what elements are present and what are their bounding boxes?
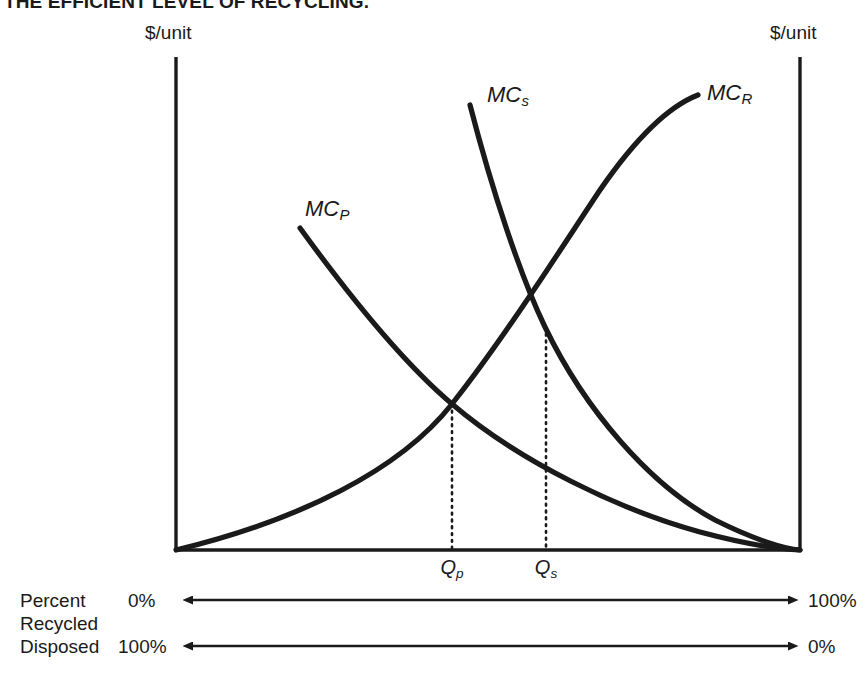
quantity-label-qp-sub: p (456, 566, 464, 581)
curve-label-mc-recycling-sub: R (742, 90, 753, 107)
figure-container: THE EFFICIENT LEVEL OF RECYCLING. $/unit… (0, 0, 867, 682)
quantity-label-qs-base: Q (535, 556, 551, 578)
scale-caption-percent: Percent (20, 590, 85, 612)
curve-marginal-cost-recycling (176, 95, 698, 550)
curve-label-mc-social: MCs (487, 82, 529, 108)
curve-label-mc-recycling: MCR (707, 80, 752, 106)
scale-caption-recycled: Recycled (20, 613, 98, 635)
quantity-label-qp-base: Q (440, 556, 456, 578)
disposed-left-value: 100% (118, 636, 167, 658)
curve-label-mc-social-sub: s (522, 92, 529, 109)
curve-label-mc-private-sub: P (340, 206, 350, 223)
curve-label-mc-private: MCP (305, 196, 349, 222)
quantity-label-qs-sub: s (550, 566, 557, 581)
curve-label-mc-private-base: MC (305, 196, 339, 221)
quantity-label-qs: Qs (535, 556, 557, 579)
curve-label-mc-social-base: MC (487, 82, 521, 107)
disposed-right-value: 0% (808, 636, 835, 658)
recycled-left-value: 0% (128, 590, 155, 612)
curve-marginal-cost-social (470, 105, 800, 550)
recycled-right-value: 100% (808, 590, 857, 612)
quantity-label-qp: Qp (440, 556, 463, 579)
curve-marginal-cost-private (300, 228, 800, 550)
scale-caption-disposed: Disposed (20, 636, 99, 658)
curve-label-mc-recycling-base: MC (707, 80, 741, 105)
